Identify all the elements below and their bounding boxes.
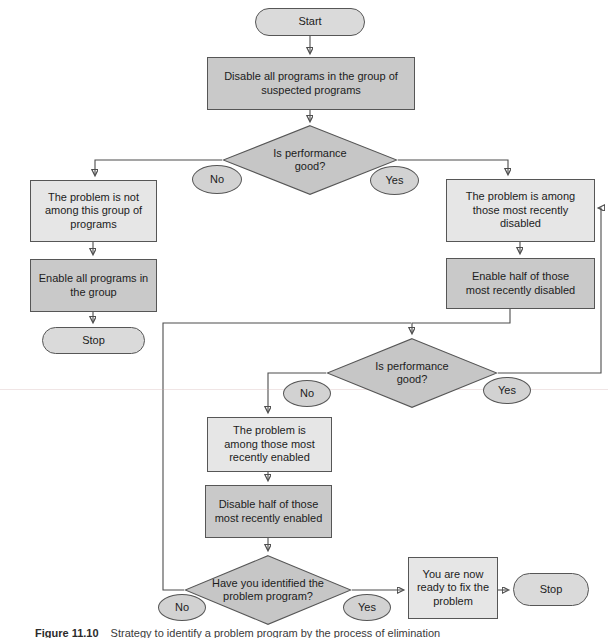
node-enable-all-label: Enable all programs in the group: [37, 272, 150, 299]
label-no-2: No: [283, 380, 331, 407]
connector-enable-half-to-decision2: [412, 309, 510, 333]
node-enable-half: Enable half of those most recently disab…: [446, 258, 595, 309]
node-ready-fix: You are now ready to fix the problem: [408, 557, 498, 619]
decision-identified: Have you identified the problem program?: [184, 555, 352, 625]
decision-identified-label: Have you identified the problem program?: [212, 577, 324, 604]
node-ready-fix-label: You are now ready to fix the problem: [413, 568, 493, 608]
label-no-1-text: No: [210, 173, 224, 186]
label-yes-1-text: Yes: [386, 174, 404, 187]
node-enable-half-label: Enable half of those most recently disab…: [463, 270, 578, 297]
label-yes-1: Yes: [370, 166, 419, 195]
node-disable-all-label: Disable all programs in the group of sus…: [218, 70, 404, 97]
label-yes-3: Yes: [343, 594, 391, 621]
node-start-label: Start: [298, 15, 321, 28]
node-among-enabled: The problem is among those most recently…: [207, 417, 332, 472]
label-yes-2-text: Yes: [498, 384, 516, 397]
node-enable-all: Enable all programs in the group: [30, 259, 157, 312]
figure-caption-text: Strategy to identify a problem program b…: [111, 627, 441, 638]
figure-caption-number: Figure 11.10: [35, 627, 99, 638]
label-no-3-text: No: [175, 601, 189, 614]
node-among-enabled-label: The problem is among those most recently…: [216, 424, 323, 464]
node-disable-all: Disable all programs in the group of sus…: [207, 57, 415, 110]
label-yes-2: Yes: [483, 377, 531, 404]
node-disable-half: Disable half of those most recently enab…: [205, 485, 332, 538]
label-no-3: No: [158, 594, 206, 621]
label-no-2-text: No: [300, 387, 314, 400]
node-stop-left: Stop: [42, 327, 145, 354]
node-stop-left-label: Stop: [82, 334, 105, 347]
decision-performance-2-label: Is performance good?: [368, 360, 456, 387]
node-not-among-label: The problem is not among this group of p…: [37, 191, 150, 231]
node-among-disabled-label: The problem is among those most recently…: [461, 190, 580, 230]
node-among-disabled: The problem is among those most recently…: [446, 179, 595, 242]
node-stop-right: Stop: [513, 573, 589, 606]
node-stop-right-label: Stop: [540, 583, 563, 596]
decision-performance-1-label: Is performance good?: [266, 147, 354, 174]
label-yes-3-text: Yes: [358, 601, 376, 614]
node-not-among: The problem is not among this group of p…: [30, 180, 157, 242]
node-disable-half-label: Disable half of those most recently enab…: [211, 498, 326, 525]
decision-performance-2: Is performance good?: [326, 338, 498, 408]
node-start: Start: [255, 8, 365, 36]
figure-caption: Figure 11.10Strategy to identify a probl…: [35, 627, 595, 638]
label-no-1: No: [192, 165, 242, 194]
flowchart-figure: Start Disable all programs in the group …: [0, 0, 608, 638]
